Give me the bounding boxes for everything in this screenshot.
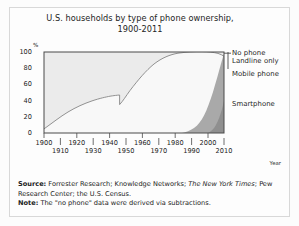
x-tick-1910: 1910 <box>49 147 71 155</box>
y-tick-20: 20 <box>14 113 32 121</box>
source-text-a: Forrester Research; Knowledge Networks; <box>46 180 188 188</box>
y-tick-80: 80 <box>14 64 32 72</box>
x-tick-2010: 2010 <box>213 147 235 155</box>
x-tick-1930: 1930 <box>82 147 104 155</box>
x-tick-1920: 1920 <box>66 139 88 147</box>
x-tick-2000: 2000 <box>197 139 219 147</box>
x-tick-1980: 1980 <box>164 139 186 147</box>
source-line: Source: Forrester Research; Knowledge Ne… <box>18 180 280 199</box>
x-tick-1900: 1900 <box>33 139 55 147</box>
note-text: The "no phone" data were derived via sub… <box>38 199 211 207</box>
legend-item-landline-only: Landline only <box>232 57 279 65</box>
source-label: Source: <box>18 180 46 188</box>
x-axis-label: Year <box>270 160 281 166</box>
note-label: Note: <box>18 199 38 207</box>
x-tick-1970: 1970 <box>148 147 170 155</box>
chart-figure: U.S. households by type of phone ownersh… <box>0 0 299 226</box>
x-tick-1940: 1940 <box>99 139 121 147</box>
legend-item-no-phone: No phone <box>232 49 266 57</box>
source-italic: The New York Times <box>188 180 255 188</box>
x-tick-1950: 1950 <box>115 147 137 155</box>
y-tick-40: 40 <box>14 97 32 105</box>
figure-footnote: Source: Forrester Research; Knowledge Ne… <box>18 180 280 209</box>
y-tick-100: 100 <box>14 48 32 56</box>
x-tick-1990: 1990 <box>181 147 203 155</box>
legend-item-mobile-phone: Mobile phone <box>232 70 279 78</box>
legend-item-smartphone: Smartphone <box>232 100 275 108</box>
note-line: Note: The "no phone" data were derived v… <box>18 199 280 209</box>
x-tick-1960: 1960 <box>131 139 153 147</box>
y-tick-60: 60 <box>14 80 32 88</box>
y-tick-0: 0 <box>14 129 32 137</box>
